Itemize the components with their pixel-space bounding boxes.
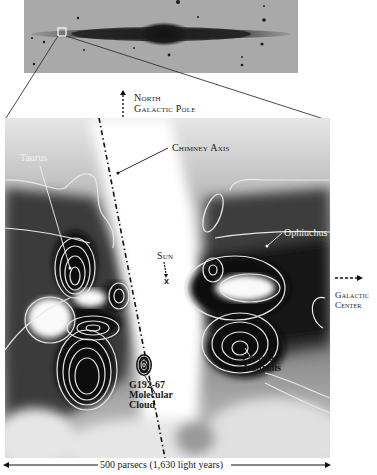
scale-bar-label: 500 parsecs (1,630 light years) xyxy=(100,459,223,470)
g192-67-cloud-label: G192-67 Molecular Cloud xyxy=(129,380,173,410)
north-pole-line1: North xyxy=(134,92,196,103)
g192-67-cloud xyxy=(136,354,152,376)
north-pole-arrow-icon xyxy=(119,90,127,118)
corona-australis-label: Corona Australis xyxy=(242,353,281,373)
ophiuchus-label: Ophiuchus xyxy=(284,228,327,238)
north-pole-line2: Galactic Pole xyxy=(134,103,196,114)
sun-position-marker: x xyxy=(164,276,169,286)
sun-label: Sun xyxy=(157,250,173,261)
galactic-center-label: Galactic Center xyxy=(335,290,369,310)
chimney-axis-label: Chimney Axis xyxy=(172,142,230,153)
galactic-center-line2: Center xyxy=(335,300,369,310)
cloud-line3: Cloud xyxy=(129,400,173,410)
galactic-center-line1: Galactic xyxy=(335,290,369,300)
north-galactic-pole-label: North Galactic Pole xyxy=(134,92,196,114)
galactic-center-arrow-icon xyxy=(335,274,365,282)
corona-line2: Australis xyxy=(242,363,281,373)
taurus-label: Taurus xyxy=(20,153,47,163)
